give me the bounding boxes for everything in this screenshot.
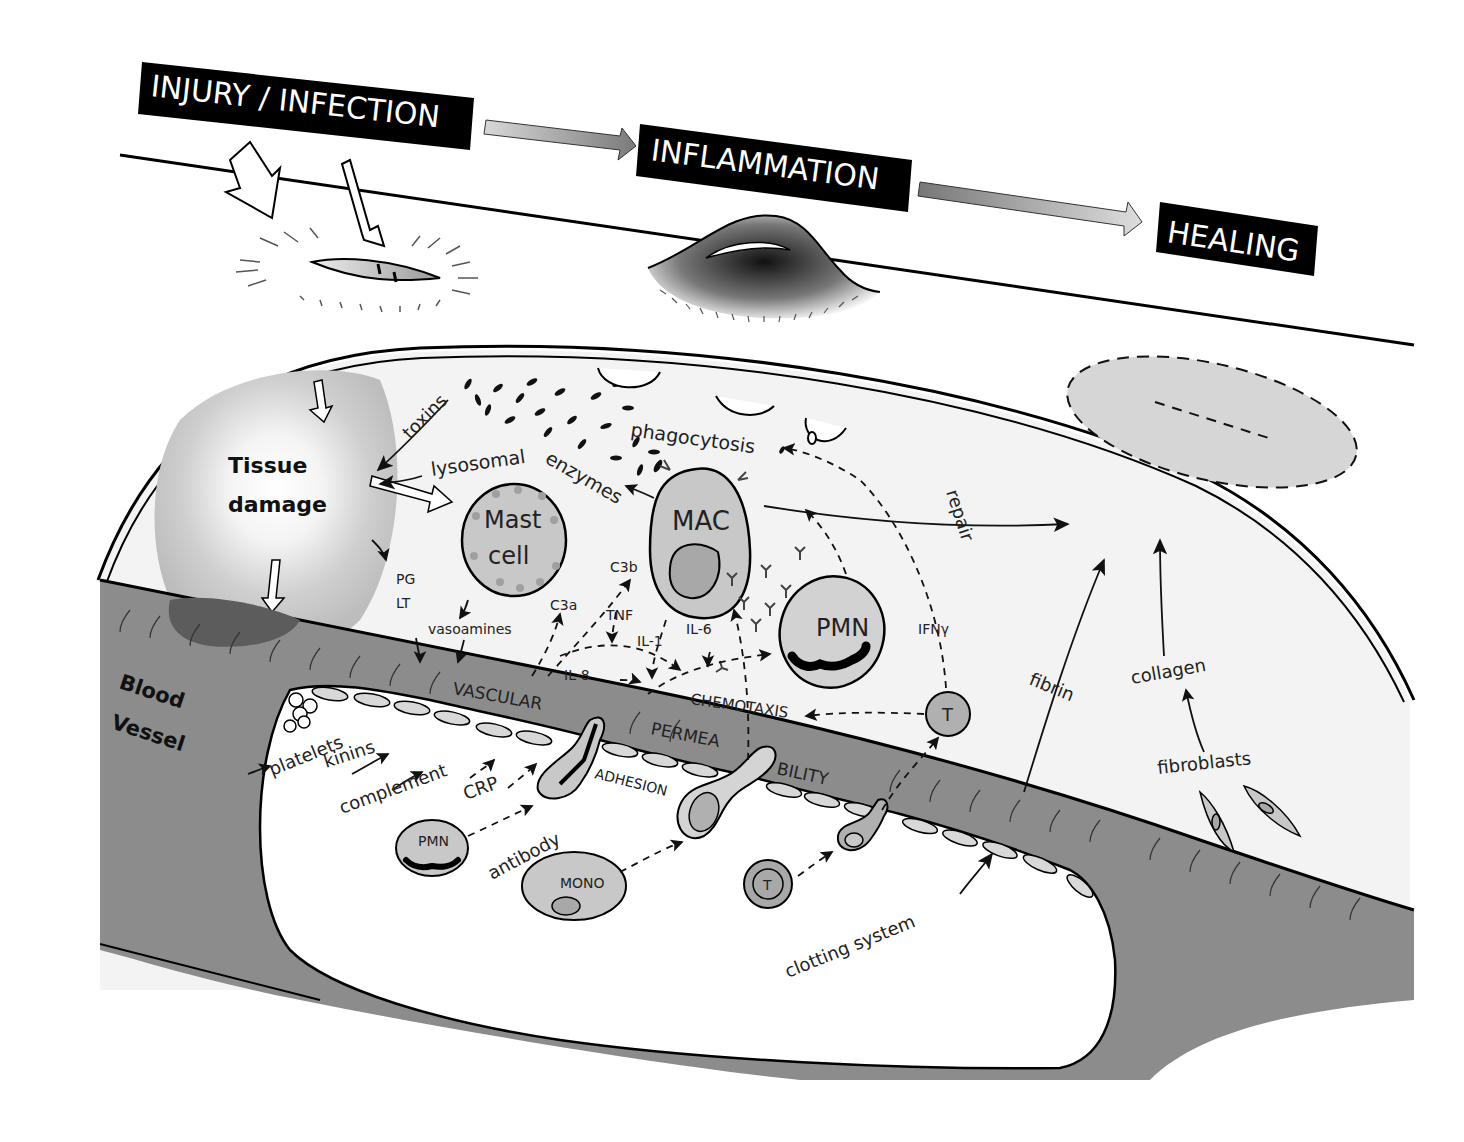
label-c3b: C3b	[610, 559, 638, 575]
mono-cell-vessel: MONO	[522, 852, 626, 920]
label-c3a: C3a	[550, 597, 577, 613]
injury-arrow-large	[226, 142, 280, 218]
mast-cell: Mast cell	[462, 484, 566, 596]
label-il1: IL-1	[637, 633, 663, 649]
tissue-damage-label-1: Tissue	[228, 453, 307, 478]
label-il6: IL-6	[686, 621, 712, 637]
wound-icon	[236, 228, 478, 312]
mono-label: MONO	[560, 875, 605, 891]
inflammation-diagram: INJURY / INFECTION INFLAMMATION HEALING	[0, 0, 1464, 1142]
injury-arrow-thin	[342, 160, 384, 246]
t-cell-vessel: T	[744, 860, 792, 908]
t-vessel-label: T	[762, 877, 772, 893]
banner-inflammation: INFLAMMATION	[636, 124, 912, 212]
banner-healing: HEALING	[1156, 202, 1318, 276]
mast-cell-label-2: cell	[488, 542, 529, 570]
t-tissue-label: T	[941, 704, 954, 725]
pmn-tissue-label: PMN	[816, 614, 869, 642]
label-pg: PG	[396, 571, 415, 587]
swelling-icon	[648, 215, 880, 322]
label-ifn-gamma: IFNγ	[918, 621, 949, 637]
stage-arrow-2	[918, 182, 1142, 236]
mast-cell-label-1: Mast	[484, 506, 541, 534]
pmn-vessel-label: PMN	[418, 833, 449, 849]
label-tnf: TNF	[605, 607, 633, 623]
label-lt: LT	[396, 595, 411, 611]
label-vasoamines: vasoamines	[428, 621, 512, 637]
banner-injury: INJURY / INFECTION	[138, 62, 474, 150]
label-il8: IL-8	[564, 667, 590, 683]
t-cell-tissue: T	[926, 692, 970, 736]
pmn-cell-vessel: PMN	[396, 820, 468, 876]
tissue-damage-label-2: damage	[228, 492, 327, 517]
stage-arrow-1	[484, 120, 636, 160]
